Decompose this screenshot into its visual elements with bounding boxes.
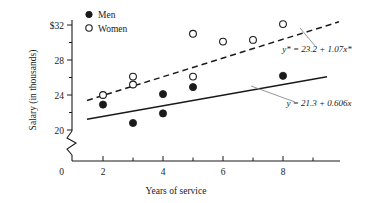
chart-canvas: $32 28 24 20 0 2 4 6 8 Salary (in thousa…	[0, 0, 385, 203]
y-axis	[67, 20, 76, 161]
y-origin-label: 0	[59, 167, 64, 177]
y-tick-label-20: 20	[55, 126, 65, 136]
legend: Men Women	[86, 10, 128, 34]
legend-label-women: Women	[98, 24, 128, 34]
data-point-women	[100, 92, 107, 99]
data-point-men	[159, 110, 166, 117]
data-point-men	[159, 91, 166, 98]
open-circle-icon	[86, 25, 92, 31]
y-tick-label-24: 24	[55, 91, 65, 101]
data-point-men	[99, 101, 106, 108]
data-point-men	[279, 72, 286, 79]
y-axis-break-symbol	[67, 131, 76, 155]
data-point-men	[129, 119, 136, 126]
x-tick-label-6: 6	[221, 167, 226, 177]
women-fit-line	[87, 22, 339, 101]
legend-item-men: Men	[86, 10, 116, 20]
data-point-women	[130, 81, 137, 88]
women-equation-label: y* = 23.2 + 1.07x*	[281, 44, 352, 54]
filled-circle-icon	[86, 11, 92, 17]
data-point-women	[190, 30, 197, 37]
data-point-women	[220, 38, 227, 45]
data-point-women	[250, 37, 257, 44]
y-tick-label-28: 28	[55, 56, 65, 66]
x-tick-label-4: 4	[161, 167, 166, 177]
y-tick-label-32: $32	[50, 21, 65, 31]
men-equation-label: y = 21.3 + 0.606x	[285, 98, 351, 108]
legend-label-men: Men	[98, 10, 116, 20]
data-point-women	[130, 73, 137, 80]
x-axis-title: Years of service	[146, 186, 207, 196]
legend-item-women: Women	[86, 24, 128, 34]
data-point-women	[190, 73, 197, 80]
x-tick-label-2: 2	[101, 167, 106, 177]
data-point-women	[280, 21, 287, 28]
y-axis-title: Salary (in thousands)	[28, 50, 39, 131]
data-point-men	[189, 84, 196, 91]
x-tick-label-8: 8	[281, 167, 286, 177]
scatter-plot-figure: $32 28 24 20 0 2 4 6 8 Salary (in thousa…	[0, 0, 385, 203]
